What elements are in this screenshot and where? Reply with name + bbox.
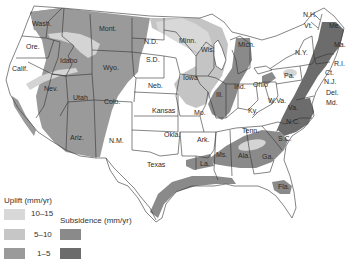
state-label-ri: R.I. — [334, 60, 345, 67]
state-label-sc: S.C. — [278, 135, 292, 142]
state-label-ma: Ma. — [334, 41, 346, 48]
state-label-nd: N.D. — [144, 38, 158, 45]
state-label-me: Me. — [329, 22, 341, 29]
subsidence-legend-title: Subsidence (mm/yr) — [60, 216, 132, 225]
state-label-fla: Fla. — [278, 183, 290, 190]
state-label-iowa: Iowa — [183, 74, 198, 81]
state-label-ga: Ga. — [262, 153, 273, 160]
state-label-ky: Ky. — [248, 107, 258, 115]
state-label-vt: Vt. — [304, 22, 313, 29]
swatch-uplift-10-15 — [4, 209, 25, 220]
swatch-uplift-5-10 — [4, 229, 25, 240]
state-label-la: La. — [200, 160, 210, 167]
state-label-kansas: Kansas — [152, 107, 176, 114]
state-label-wyo: Wyo. — [103, 64, 119, 72]
state-label-nev: Nev. — [44, 85, 58, 92]
state-label-nc: N.C. — [286, 118, 300, 125]
state-label-wis: Wis. — [201, 46, 215, 53]
legend: Uplift (mm/yr) 10–15 Subsidence (mm/yr) … — [4, 196, 154, 262]
state-label-md: Md. — [326, 99, 338, 106]
region-subsidence-gulf — [150, 176, 236, 218]
state-label-mo: Mo. — [194, 109, 206, 116]
state-label-wva: W.Va. — [268, 97, 286, 104]
state-label-nh: N.H. — [303, 11, 317, 18]
state-label-nj: N.J. — [324, 78, 337, 85]
state-label-mont: Mont. — [99, 25, 117, 32]
swatch-uplift-1-5 — [4, 248, 25, 259]
uplift-range-10-15: 10–15 — [31, 209, 53, 218]
state-label-idaho: Idaho — [60, 57, 78, 64]
state-label-ark: Ark. — [197, 136, 210, 143]
state-label-neb: Neb. — [148, 82, 163, 89]
swatch-subsidence-5-10 — [60, 229, 81, 240]
state-label-ind: Ind. — [234, 83, 246, 90]
state-label-ct: Ct. — [325, 69, 334, 76]
state-label-ala: Ala. — [238, 152, 250, 159]
state-label-wash: Wash. — [32, 20, 52, 27]
region-uplift-calif — [12, 96, 36, 136]
state-label-tenn: Tenn. — [242, 127, 259, 134]
state-label-minn: Minn. — [179, 37, 196, 44]
state-label-ny: N.Y. — [295, 49, 308, 56]
uplift-range-5-10: 5–10 — [34, 230, 52, 239]
state-label-okla: Okla. — [164, 131, 180, 138]
state-label-colo: Colo. — [104, 98, 120, 105]
state-label-ariz: Ariz. — [70, 134, 84, 141]
state-label-utah: Utah — [73, 94, 88, 101]
state-label-ore: Ore. — [26, 43, 40, 50]
state-label-texas: Texas — [147, 161, 166, 168]
range-1-5: 1–5 — [37, 249, 50, 258]
state-label-ohio: Ohio — [253, 81, 268, 88]
state-label-nm: N.M. — [109, 137, 124, 144]
state-label-calif: Calif. — [12, 65, 28, 72]
state-label-ms: Ms. — [216, 151, 227, 158]
state-label-del: Del. — [326, 89, 339, 96]
state-label-pa: Pa. — [284, 72, 295, 79]
uplift-legend-title: Uplift (mm/yr) — [4, 196, 52, 205]
state-label-va: Va. — [288, 104, 298, 111]
swatch-subsidence-1-5 — [60, 248, 81, 259]
state-label-mich: Mich. — [238, 41, 255, 48]
state-label-ill: Ill. — [216, 91, 223, 98]
state-label-sd: S.D. — [146, 56, 160, 63]
